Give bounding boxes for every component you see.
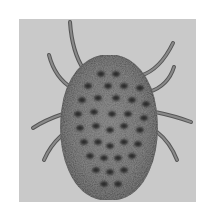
body-spot: [74, 111, 81, 117]
body-spot: [114, 181, 121, 187]
body-spot: [84, 83, 91, 89]
body-spot: [104, 83, 111, 89]
body-spot: [94, 95, 101, 101]
body-spot: [120, 167, 127, 173]
body-spot: [120, 83, 127, 89]
body-spot: [97, 71, 104, 77]
body-spot: [108, 111, 115, 117]
body-spot: [128, 153, 135, 159]
body-spot: [134, 141, 141, 147]
body-spot: [112, 71, 119, 77]
body-spot: [120, 123, 127, 129]
leg-left-1: [70, 22, 84, 70]
tick-illustration: [0, 0, 209, 218]
body-spot: [136, 127, 143, 133]
leg-right-4: [157, 132, 177, 160]
leg-right-1: [140, 43, 173, 76]
leg-right-3-highlight: [155, 112, 191, 122]
body-spot: [128, 97, 135, 103]
body-spot: [78, 97, 85, 103]
body-spot: [120, 139, 127, 145]
body-spot: [142, 101, 149, 107]
body-spot: [92, 123, 99, 129]
body-spot: [94, 139, 101, 145]
body-spot: [86, 153, 93, 159]
body-spot: [90, 109, 97, 115]
body-spot: [92, 167, 99, 173]
body-spot: [80, 139, 87, 145]
body-spot: [114, 155, 121, 161]
body-spot: [136, 85, 143, 91]
body-spot: [112, 95, 119, 101]
body-spot: [76, 125, 83, 131]
leg-left-2: [49, 55, 72, 88]
body-spot: [140, 115, 147, 121]
leg-right-1-highlight: [140, 43, 173, 76]
body-spot: [124, 111, 131, 117]
